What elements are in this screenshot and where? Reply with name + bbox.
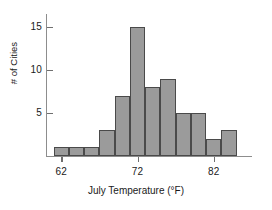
histogram-bar bbox=[145, 87, 160, 156]
x-axis-title: July Temperature (°F) bbox=[0, 185, 272, 196]
y-axis-tick-labels: 51015 bbox=[18, 0, 42, 160]
histogram-bar bbox=[99, 130, 114, 156]
histogram-bar bbox=[54, 147, 69, 156]
x-axis-tick-label: 82 bbox=[199, 166, 229, 177]
histogram-bar bbox=[206, 139, 221, 156]
histogram-bar bbox=[115, 96, 130, 156]
y-axis-tick-label: 10 bbox=[20, 65, 42, 75]
x-axis-tick bbox=[61, 157, 62, 162]
x-axis-tick-label: 72 bbox=[123, 166, 153, 177]
y-axis-tick-label: 15 bbox=[20, 22, 42, 32]
histogram-bar bbox=[191, 113, 206, 156]
x-axis-tick bbox=[138, 157, 139, 162]
x-axis-tick-label: 62 bbox=[46, 166, 76, 177]
histogram-bar bbox=[221, 130, 236, 156]
y-axis-title: # of Cities bbox=[9, 29, 19, 97]
histogram-bar bbox=[130, 27, 145, 156]
x-axis-tick bbox=[214, 157, 215, 162]
histogram-bar bbox=[160, 79, 175, 156]
plot-area bbox=[46, 14, 252, 156]
histogram-chart: 51015 # of Cities 627282 July Temperatur… bbox=[0, 0, 272, 210]
histogram-bar bbox=[176, 113, 191, 156]
y-axis-tick-label: 5 bbox=[20, 108, 42, 118]
histogram-bar bbox=[84, 147, 99, 156]
histogram-bar bbox=[69, 147, 84, 156]
